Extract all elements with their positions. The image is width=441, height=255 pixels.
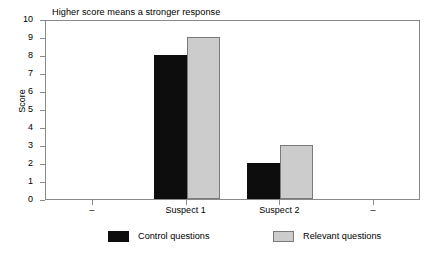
legend-label-control: Control questions bbox=[138, 231, 210, 241]
y-axis-tick-label: 10 bbox=[23, 14, 33, 24]
legend-swatch-relevant-icon bbox=[273, 231, 294, 242]
bar-control-1 bbox=[154, 55, 187, 199]
chart-title: Higher score means a stronger response bbox=[52, 7, 220, 18]
bar-chart-figure: Higher score means a stronger response S… bbox=[0, 0, 441, 255]
x-axis-tick-label: Suspect 2 bbox=[234, 205, 324, 215]
x-axis-tick-label: Suspect 1 bbox=[141, 205, 231, 215]
y-axis-tick-label: 8 bbox=[28, 50, 33, 60]
y-axis-tick-label: 3 bbox=[28, 140, 33, 150]
bar-control-2 bbox=[247, 163, 280, 199]
y-axis-tick-label: 9 bbox=[28, 32, 33, 42]
y-axis-tick-label: 0 bbox=[28, 194, 33, 204]
y-axis-tick-label: 1 bbox=[28, 176, 33, 186]
legend-item-control-questions: Control questions bbox=[108, 228, 210, 244]
legend-swatch-control-icon bbox=[108, 231, 129, 242]
x-axis-tick-label: – bbox=[47, 205, 137, 215]
y-axis-tick-label: 2 bbox=[28, 158, 33, 168]
chart-legend: Control questions Relevant questions bbox=[0, 228, 441, 248]
y-axis-tick-mark bbox=[40, 200, 45, 201]
x-axis-tick-label: – bbox=[328, 205, 418, 215]
y-axis-tick-label: 5 bbox=[28, 104, 33, 114]
bar-relevant-2 bbox=[280, 145, 313, 199]
y-axis-tick-label: 7 bbox=[28, 68, 33, 78]
y-axis-label: Score bbox=[17, 71, 27, 131]
legend-label-relevant: Relevant questions bbox=[303, 231, 381, 241]
y-axis-tick-label: 6 bbox=[28, 86, 33, 96]
bar-relevant-1 bbox=[187, 37, 220, 199]
y-axis-tick-label: 4 bbox=[28, 122, 33, 132]
plot-frame bbox=[45, 20, 420, 200]
plot-area bbox=[46, 21, 419, 199]
legend-item-relevant-questions: Relevant questions bbox=[273, 228, 381, 244]
